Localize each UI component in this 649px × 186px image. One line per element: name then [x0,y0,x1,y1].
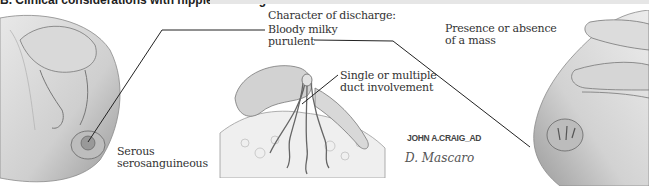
purulent-label: purulent [268,36,314,49]
serous-label-2: serosanguineous [117,158,208,171]
mass-label-2: of a mass [445,35,496,48]
character-of-discharge-heading: Character of discharge: [268,10,396,23]
artist-signature: JOHN A.CRAIG_AD [407,133,481,143]
duct-involvement-label-2: duct involvement [340,82,433,95]
colorist-signature: D. Mascaro [405,151,474,165]
